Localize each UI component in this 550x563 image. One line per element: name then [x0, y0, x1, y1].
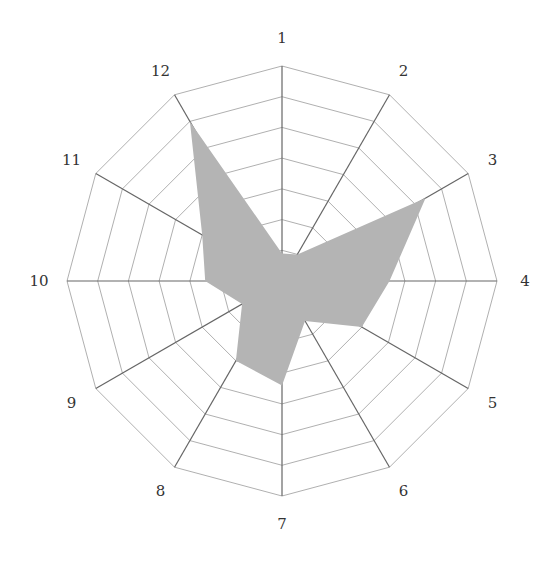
axis-label-7: 7 — [277, 515, 287, 533]
axis-label-2: 2 — [399, 62, 409, 80]
data-polygon — [190, 121, 426, 385]
axis-label-6: 6 — [399, 482, 409, 500]
axis-label-12: 12 — [151, 62, 170, 80]
radar-chart: 123456789101112 — [0, 0, 550, 563]
axis-label-1: 1 — [277, 29, 287, 47]
axis-label-11: 11 — [62, 151, 81, 169]
axis-label-8: 8 — [156, 482, 166, 500]
axis-label-5: 5 — [488, 394, 498, 412]
axis-label-4: 4 — [520, 272, 530, 290]
data-polygon-group — [190, 121, 426, 385]
axis-label-10: 10 — [29, 272, 48, 290]
axis-label-3: 3 — [488, 151, 498, 169]
axis-label-9: 9 — [67, 394, 77, 412]
